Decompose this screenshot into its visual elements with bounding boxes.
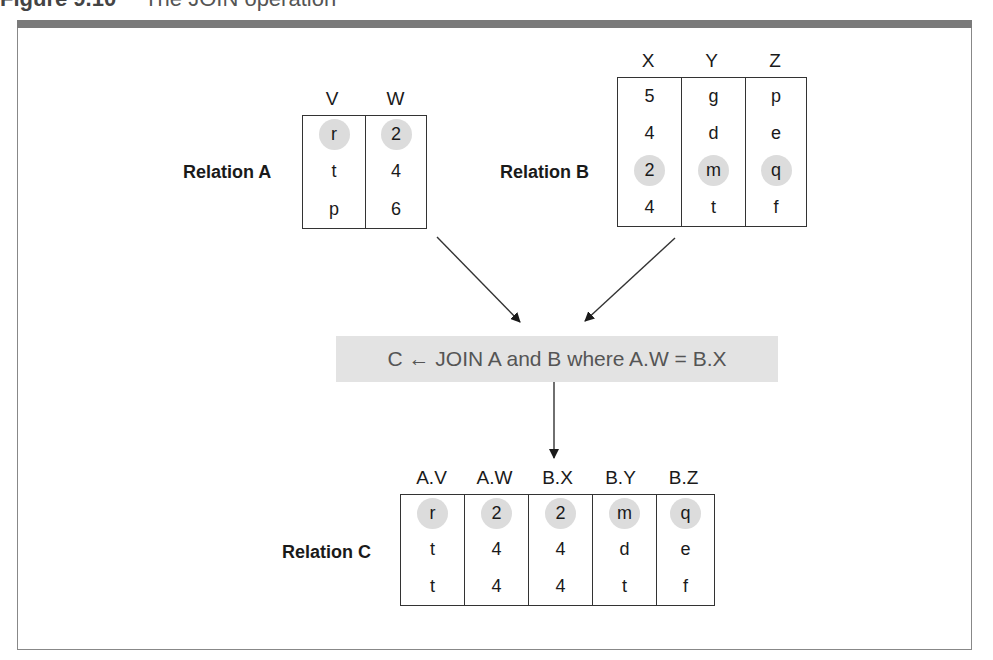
table-cell: 4 xyxy=(618,189,682,227)
cell-value: e xyxy=(670,534,701,565)
table-cell: r xyxy=(303,116,366,154)
relation-b-col-z: Z xyxy=(743,50,807,72)
cell-value: p xyxy=(319,194,350,225)
cell-value: 6 xyxy=(381,194,412,225)
table-cell: 2 xyxy=(529,495,593,532)
table-cell: r xyxy=(401,495,465,532)
table-cell: m xyxy=(593,495,657,532)
table-cell: 5 xyxy=(618,78,682,116)
cell-value: g xyxy=(698,81,729,112)
table-cell: 2 xyxy=(465,495,529,532)
table-row: p 6 xyxy=(303,191,427,229)
table-cell: 4 xyxy=(618,115,682,152)
table-cell: t xyxy=(593,568,657,605)
cell-value: e xyxy=(761,118,792,149)
figure-number: Figure 9.10 xyxy=(0,0,116,11)
cell-value: 4 xyxy=(381,156,412,187)
relation-c-label: Relation C xyxy=(282,542,371,563)
cell-value: t xyxy=(609,571,640,602)
relation-c-col-av: A.V xyxy=(400,467,463,489)
highlight-marker: r xyxy=(319,119,350,150)
cell-value: 4 xyxy=(634,118,665,149)
highlight-marker: q xyxy=(761,155,792,186)
figure-top-bar xyxy=(17,20,972,28)
cell-value: t xyxy=(698,192,729,223)
highlight-marker: q xyxy=(670,498,701,529)
table-cell: 6 xyxy=(366,191,427,229)
table-cell: 4 xyxy=(366,153,427,190)
table-cell: 4 xyxy=(465,532,529,569)
cell-value: 4 xyxy=(545,571,576,602)
table-row: 2 m q xyxy=(618,152,807,189)
table-row: r 2 xyxy=(303,116,427,154)
highlight-marker: 2 xyxy=(634,155,665,186)
relation-c-table: r 2 2 m q t 4 4 d e t 4 4 t f xyxy=(400,494,715,606)
table-cell: t xyxy=(303,153,366,190)
relation-c-col-bz: B.Z xyxy=(652,467,715,489)
relation-c-col-aw: A.W xyxy=(463,467,526,489)
table-cell: f xyxy=(657,568,715,605)
cell-value: 4 xyxy=(545,534,576,565)
table-cell: t xyxy=(401,568,465,605)
table-cell: d xyxy=(682,115,746,152)
highlight-marker: m xyxy=(609,498,640,529)
table-cell: 2 xyxy=(366,116,427,154)
cell-value: 4 xyxy=(481,571,512,602)
relation-b-col-x: X xyxy=(617,50,679,72)
table-cell: q xyxy=(657,495,715,532)
relation-b-col-y: Y xyxy=(680,50,743,72)
cell-value: f xyxy=(670,571,701,602)
table-row: t 4 4 d e xyxy=(401,532,715,569)
table-cell: e xyxy=(746,115,807,152)
cell-value: t xyxy=(417,571,448,602)
join-operation-text: C ← JOIN A and B where A.W = B.X xyxy=(387,347,726,371)
relation-c-col-by: B.Y xyxy=(589,467,652,489)
cell-value: t xyxy=(319,156,350,187)
table-row: 4 d e xyxy=(618,115,807,152)
cell-value: t xyxy=(417,534,448,565)
highlight-marker: 2 xyxy=(381,119,412,150)
relation-a-table: r 2 t 4 p 6 xyxy=(302,115,427,229)
cell-value: p xyxy=(761,81,792,112)
table-cell: f xyxy=(746,189,807,227)
table-cell: 4 xyxy=(529,568,593,605)
cell-value: f xyxy=(761,192,792,223)
relation-a-col-v: V xyxy=(302,88,362,110)
cell-value: d xyxy=(609,534,640,565)
table-cell: t xyxy=(682,189,746,227)
table-row: 4 t f xyxy=(618,189,807,227)
table-cell: q xyxy=(746,152,807,189)
table-cell: e xyxy=(657,532,715,569)
table-cell: 4 xyxy=(465,568,529,605)
table-row: 5 g p xyxy=(618,78,807,116)
relation-a-col-w: W xyxy=(364,88,427,110)
cell-value: 5 xyxy=(634,81,665,112)
table-cell: 4 xyxy=(529,532,593,569)
table-row: t 4 xyxy=(303,153,427,190)
join-operation-box: C ← JOIN A and B where A.W = B.X xyxy=(336,336,778,382)
relation-a-label: Relation A xyxy=(183,162,271,183)
figure-title: Figure 9.10The JOIN operation xyxy=(0,0,336,12)
highlight-marker: m xyxy=(698,155,729,186)
figure-caption: The JOIN operation xyxy=(144,0,336,11)
relation-b-table: 5 g p 4 d e 2 m q 4 t f xyxy=(617,77,807,227)
table-cell: p xyxy=(746,78,807,116)
table-cell: 2 xyxy=(618,152,682,189)
table-cell: g xyxy=(682,78,746,116)
table-row: t 4 4 t f xyxy=(401,568,715,605)
table-cell: p xyxy=(303,191,366,229)
cell-value: d xyxy=(698,118,729,149)
table-cell: t xyxy=(401,532,465,569)
table-row: r 2 2 m q xyxy=(401,495,715,532)
highlight-marker: r xyxy=(417,498,448,529)
cell-value: 4 xyxy=(481,534,512,565)
relation-b-label: Relation B xyxy=(500,162,589,183)
relation-c-col-bx: B.X xyxy=(526,467,589,489)
cell-value: 4 xyxy=(634,192,665,223)
table-cell: m xyxy=(682,152,746,189)
highlight-marker: 2 xyxy=(545,498,576,529)
highlight-marker: 2 xyxy=(481,498,512,529)
table-cell: d xyxy=(593,532,657,569)
